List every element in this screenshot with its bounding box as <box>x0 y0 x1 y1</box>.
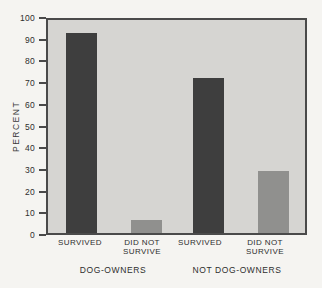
y-tick-label-10: 10 <box>25 208 35 218</box>
y-tick-mark <box>39 234 46 236</box>
survival-bar-chart-figure: PERCENT 0102030405060708090100 SURVIVED … <box>0 0 322 288</box>
y-tick-label-90: 90 <box>25 35 35 45</box>
y-tick-mark <box>39 169 46 171</box>
y-tick-mark <box>39 191 46 193</box>
y-tick-label-70: 70 <box>25 78 35 88</box>
bar-label-not-dog-owners-did-not-survive: DID NOT SURVIVE <box>237 238 293 256</box>
y-tick-label-100: 100 <box>20 13 35 23</box>
group-label-dog-owners: DOG-OWNERS <box>63 265 163 275</box>
y-tick-mark <box>39 39 46 41</box>
y-tick-mark <box>39 104 46 106</box>
y-tick-label-50: 50 <box>25 122 35 132</box>
y-tick-mark <box>39 17 46 19</box>
y-tick-label-60: 60 <box>25 100 35 110</box>
y-tick-mark <box>39 82 46 84</box>
y-tick-label-80: 80 <box>25 56 35 66</box>
y-tick-label-30: 30 <box>25 165 35 175</box>
y-tick-mark <box>39 212 46 214</box>
bar-dog-owners-did-not-survive <box>131 220 162 233</box>
group-label-not-dog-owners: NOT DOG-OWNERS <box>182 265 292 275</box>
bar-not-dog-owners-did-not-survive <box>258 171 289 233</box>
bar-dog-owners-survived <box>66 33 97 233</box>
y-tick-label-20: 20 <box>25 187 35 197</box>
plot-area <box>46 18 307 235</box>
bar-label-dog-owners-did-not-survive: DID NOT SURVIVE <box>114 238 170 256</box>
bar-not-dog-owners-survived <box>193 78 224 233</box>
y-tick-label-40: 40 <box>25 143 35 153</box>
y-tick-mark <box>39 147 46 149</box>
y-axis: 0102030405060708090100 <box>0 18 46 235</box>
bar-label-not-dog-owners-survived: SURVIVED <box>172 238 228 247</box>
y-tick-mark <box>39 126 46 128</box>
y-tick-mark <box>39 60 46 62</box>
bar-label-dog-owners-survived: SURVIVED <box>52 238 108 247</box>
y-tick-label-0: 0 <box>30 230 35 240</box>
